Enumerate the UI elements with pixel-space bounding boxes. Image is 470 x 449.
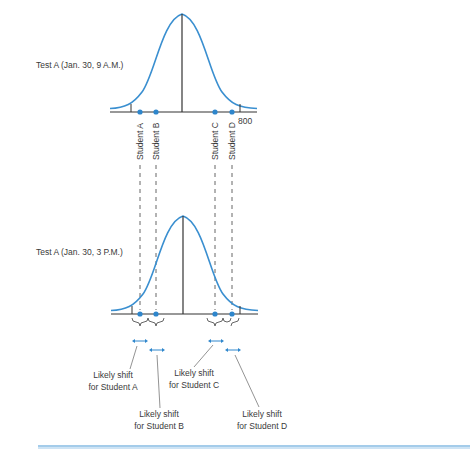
bottom-dot-student-b <box>153 311 158 316</box>
bottom-normal-curve <box>111 216 258 311</box>
callout-d-line2: for Student D <box>237 421 287 431</box>
braces <box>132 318 239 326</box>
callout-a-line1: Likely shift <box>93 370 133 380</box>
brace-student-b <box>148 318 164 326</box>
top-dot-student-c <box>212 109 217 114</box>
bottom-dot-student-c <box>212 311 217 316</box>
callout-d-line1: Likely shift <box>242 409 282 419</box>
brace-student-c <box>207 318 223 326</box>
double-arrow-icon <box>208 339 224 343</box>
top-normal-curve <box>110 14 257 109</box>
dashed-connectors <box>140 165 232 310</box>
bottom-panel-label: Test A (Jan. 30, 3 P.M.) <box>36 247 123 257</box>
callouts: Likely shift for Student A Likely shift … <box>88 368 287 431</box>
top-panel-label: Test A (Jan. 30, 9 A.M.) <box>36 60 124 70</box>
double-arrow-icon <box>149 348 165 352</box>
student-labels: Student A Student B Student C Student D <box>135 122 237 160</box>
bottom-distribution: Test A (Jan. 30, 3 P.M.) <box>36 216 258 317</box>
top-distribution: Test A (Jan. 30, 9 A.M.) 800 <box>36 14 257 126</box>
shift-arrows <box>132 339 241 352</box>
callout-c-line1: Likely shift <box>174 368 214 378</box>
bottom-dot-student-d <box>229 311 234 316</box>
double-arrow-icon <box>132 339 148 343</box>
callout-a-line2: for Student A <box>88 382 137 392</box>
bottom-rule <box>38 446 470 448</box>
top-dot-student-a <box>137 109 142 114</box>
student-label-a: Student A <box>135 123 145 160</box>
axis-label-800: 800 <box>238 116 252 126</box>
bottom-dot-student-a <box>137 311 142 316</box>
double-arrow-icon <box>225 348 241 352</box>
diagram-canvas: Test A (Jan. 30, 9 A.M.) 800 Student A S… <box>0 0 470 449</box>
leader-student-d <box>235 355 259 407</box>
callout-b-line2: for Student B <box>134 421 184 431</box>
callout-c-line2: for Student C <box>169 380 219 390</box>
leader-student-b <box>157 355 160 408</box>
brace-student-d <box>223 318 239 326</box>
callout-b-line1: Likely shift <box>139 409 179 419</box>
brace-student-a <box>132 318 148 326</box>
student-label-b: Student B <box>151 122 161 160</box>
leader-student-c <box>194 345 213 367</box>
top-dot-student-d <box>229 109 234 114</box>
student-label-d: Student D <box>227 122 237 160</box>
top-dot-student-b <box>153 109 158 114</box>
leader-student-a <box>130 346 137 369</box>
student-label-c: Student C <box>210 122 220 160</box>
